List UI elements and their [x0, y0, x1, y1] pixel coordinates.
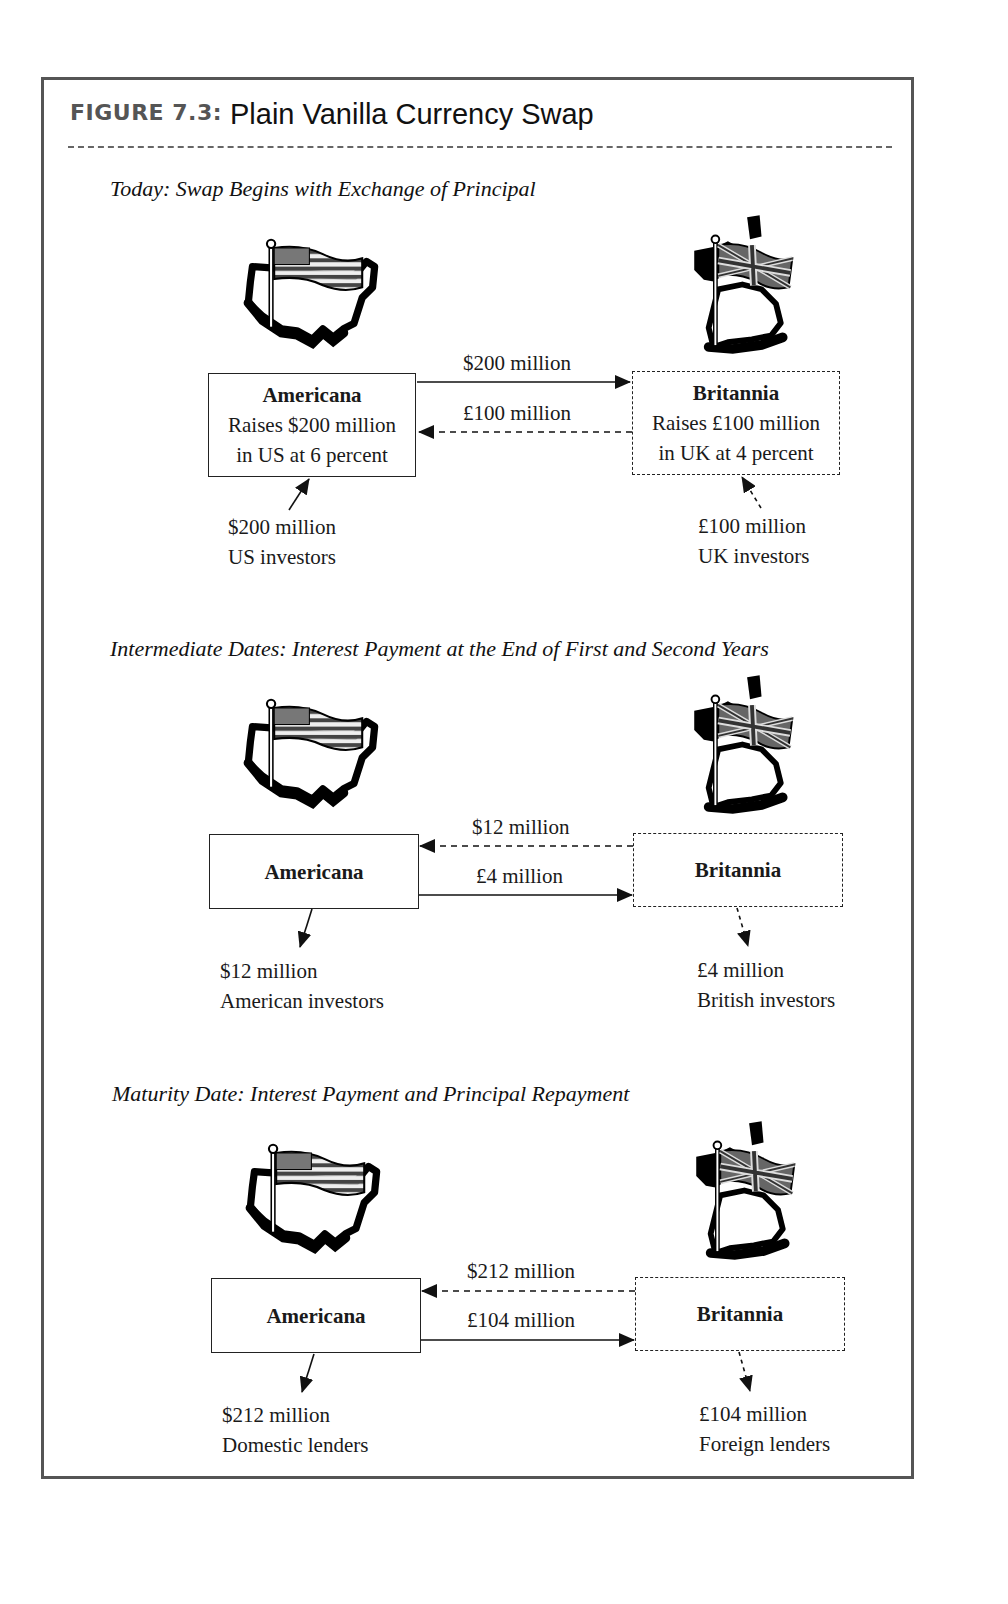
flow-arrows — [0, 0, 1008, 1604]
arrow-us-investors-to-americana — [289, 479, 309, 510]
arrow-americana-to-investors — [300, 909, 312, 947]
arrow-britannia-to-lenders — [739, 1352, 750, 1391]
arrow-britannia-to-investors — [737, 908, 748, 946]
arrow-americana-to-lenders — [302, 1354, 314, 1392]
arrow-uk-investors-to-britannia — [742, 477, 761, 508]
